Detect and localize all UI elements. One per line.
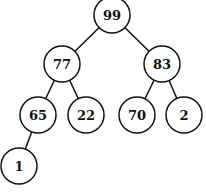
node-label: 2 bbox=[179, 108, 188, 123]
node-label: 77 bbox=[53, 57, 71, 72]
edges bbox=[19, 15, 184, 166]
node-label: 65 bbox=[29, 108, 47, 123]
tree-node: 99 bbox=[94, 0, 130, 33]
nodes: 99 77 83 65 22 70 2 1 bbox=[1, 0, 202, 184]
tree-node: 2 bbox=[166, 97, 202, 133]
tree-node: 65 bbox=[20, 97, 56, 133]
node-label: 70 bbox=[128, 108, 146, 123]
tree-diagram: 99 77 83 65 22 70 2 1 bbox=[0, 0, 206, 192]
node-label: 99 bbox=[103, 8, 121, 23]
node-label: 83 bbox=[153, 57, 171, 72]
tree-node: 77 bbox=[44, 46, 80, 82]
tree-node: 22 bbox=[68, 97, 104, 133]
node-label: 22 bbox=[77, 108, 95, 123]
tree-node: 1 bbox=[1, 148, 37, 184]
node-label: 1 bbox=[14, 159, 23, 174]
tree-node: 70 bbox=[119, 97, 155, 133]
tree-node: 83 bbox=[144, 46, 180, 82]
